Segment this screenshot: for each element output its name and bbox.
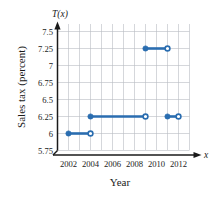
open-endpoint (143, 114, 148, 119)
y-tick-label: 6.5 (42, 95, 53, 105)
x-tick-labels: 2002 2004 2006 2008 2010 2012 (60, 159, 187, 169)
x-axis-name-label: x (203, 150, 209, 160)
x-tick-label: 2004 (82, 159, 100, 169)
y-axis-arrowhead (54, 22, 60, 30)
x-axis-caption: Year (110, 176, 131, 188)
closed-endpoint (66, 131, 71, 136)
y-tick-label: 7 (49, 61, 54, 71)
x-tick-label: 2010 (148, 159, 165, 169)
y-tick-labels: 7.5 7.25 7 6.75 6.5 6.25 6 5.75 (38, 27, 54, 156)
y-axis (54, 22, 60, 151)
y-tick-label: 6.25 (38, 112, 53, 122)
x-axis-arrowhead (194, 152, 202, 158)
closed-endpoint (88, 114, 93, 119)
closed-endpoint (165, 114, 170, 119)
y-tick-label: 6.75 (38, 78, 53, 88)
x-tick-label: 2006 (104, 159, 122, 169)
step-function-chart: T(x) x 7.5 7.25 7 6.75 6.5 6.25 6 5.75 2… (0, 0, 220, 208)
x-tick-label: 2008 (126, 159, 143, 169)
open-endpoint (88, 131, 93, 136)
y-tick-label: 7.25 (38, 44, 53, 54)
chart-figure-container: T(x) x 7.5 7.25 7 6.75 6.5 6.25 6 5.75 2… (0, 0, 220, 208)
closed-endpoint (143, 46, 148, 51)
open-endpoint (176, 114, 181, 119)
vertical-gridlines (58, 24, 190, 150)
y-tick-label: 5.75 (38, 146, 53, 156)
x-tick-label: 2002 (60, 159, 77, 169)
x-axis (53, 151, 202, 159)
open-endpoint (165, 46, 170, 51)
y-tick-label: 6 (49, 129, 54, 139)
y-tick-label: 7.5 (42, 27, 53, 37)
y-axis-name-label: T(x) (52, 9, 68, 20)
y-axis-caption: Sales tax (percent) (15, 46, 28, 128)
x-tick-label: 2012 (170, 159, 187, 169)
